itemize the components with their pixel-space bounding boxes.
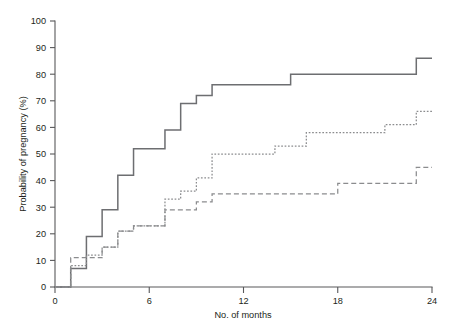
y-tick-label: 40 [36,176,46,186]
y-tick-label: 100 [31,16,46,26]
x-tick-label: 0 [52,296,57,306]
x-axis: 06121824 [52,287,437,306]
y-tick-label: 70 [36,96,46,106]
x-tick-label: 18 [333,296,343,306]
series-dashed-curve [55,167,432,287]
y-tick-label: 10 [36,256,46,266]
y-axis: 0102030405060708090100 [31,16,55,292]
y-tick-label: 80 [36,70,46,80]
series-layer [55,58,432,287]
y-axis-ticks: 0102030405060708090100 [31,16,55,292]
y-tick-label: 50 [36,149,46,159]
x-axis-title: No. of months [214,310,272,320]
x-tick-label: 24 [427,296,437,306]
series-dotted-curve [55,111,432,287]
chart-container: 0102030405060708090100 06121824 Probabil… [0,0,455,336]
y-tick-label: 30 [36,203,46,213]
x-tick-label: 12 [238,296,248,306]
y-tick-label: 90 [36,43,46,53]
y-tick-label: 20 [36,229,46,239]
kaplan-meier-plot: 0102030405060708090100 06121824 Probabil… [0,0,455,336]
y-tick-label: 0 [41,282,46,292]
y-tick-label: 60 [36,123,46,133]
y-axis-title: Probability of pregnancy (%) [18,96,28,211]
series-solid-curve [55,58,432,287]
x-axis-ticks: 06121824 [52,287,437,306]
x-tick-label: 6 [147,296,152,306]
